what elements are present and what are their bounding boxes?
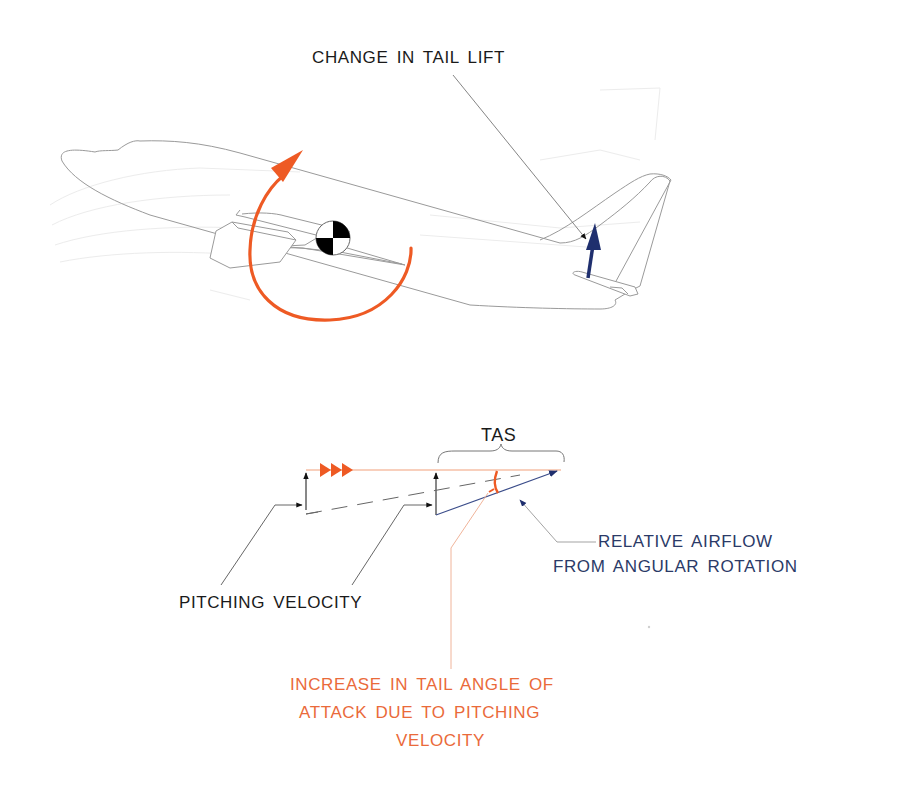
center-of-gravity-icon — [316, 221, 350, 255]
relative-airflow-label-line1: RELATIVE AIRFLOW — [598, 530, 773, 554]
pitching-leader-left — [221, 505, 302, 585]
resultant-dashed-line — [306, 475, 520, 514]
aoa-increase-label-line2: ATTACK DUE TO PITCHING — [299, 701, 540, 725]
aoa-increase-label-line1: INCREASE IN TAIL ANGLE OF — [290, 673, 554, 697]
relative-airflow-label-line2: FROM ANGULAR ROTATION — [553, 555, 798, 579]
airplane-ghost-lines — [50, 88, 660, 300]
aoa-increase-label-line3: VELOCITY — [396, 729, 485, 753]
vector-diagram — [221, 444, 596, 669]
pitching-leader-right — [352, 505, 432, 585]
airplane — [50, 88, 671, 309]
change-in-tail-lift-label: CHANGE IN TAIL LIFT — [312, 46, 505, 70]
fuselage-outline — [61, 141, 670, 309]
horizontal-stabilizer — [573, 271, 638, 296]
aoa-leader — [451, 493, 488, 669]
pitching-velocity-label: PITCHING VELOCITY — [179, 591, 362, 615]
aoa-angle-arc — [495, 471, 498, 493]
relative-airflow-line — [436, 471, 557, 515]
stray-mark — [648, 626, 650, 628]
relative-airflow-leader — [520, 500, 596, 542]
tail-fin-trailing-edge — [615, 180, 671, 283]
triple-chevron-icon — [320, 463, 353, 477]
aoa-arc-tick — [489, 489, 494, 492]
tas-label: TAS — [481, 423, 516, 447]
lift-arrow-icon — [586, 223, 601, 278]
tail-lift-leader-line — [453, 75, 586, 239]
